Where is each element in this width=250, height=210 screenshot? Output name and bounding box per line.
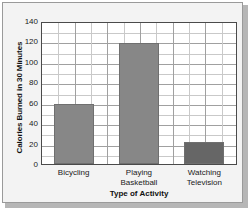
y-tick-label: 100	[4, 59, 38, 67]
x-axis-ticks: Bicycling Playing Basketball Watching Te…	[41, 168, 237, 190]
figure-shadow-bottom	[5, 203, 248, 208]
x-tick-label-playing-basketball: Playing Basketball	[106, 168, 171, 187]
y-tick-label: 0	[4, 161, 38, 169]
bar-watching-television[interactable]	[184, 142, 224, 164]
bar-series	[42, 23, 236, 164]
x-tick-line: Television	[172, 178, 237, 188]
y-tick-label: 80	[4, 79, 38, 87]
y-tick-label: 20	[4, 141, 38, 149]
bar-bicycling[interactable]	[54, 104, 94, 164]
x-tick-label-watching-television: Watching Television	[172, 168, 237, 187]
figure-shadow-right	[243, 5, 248, 208]
x-tick-line: Basketball	[106, 178, 171, 188]
y-tick-label: 120	[4, 38, 38, 46]
x-tick-line: Watching	[172, 168, 237, 178]
x-tick-label-bicycling: Bicycling	[41, 168, 106, 178]
y-axis-ticks: 140 120 100 80 60 40 20 0	[0, 22, 38, 165]
x-tick-line: Playing	[106, 168, 171, 178]
x-axis-title: Type of Activity	[41, 189, 237, 198]
plot-area	[41, 22, 237, 165]
chart-figure: Calories Burned in 30 Minutes 140 120 10…	[0, 0, 250, 210]
y-tick-label: 60	[4, 100, 38, 108]
y-tick-label: 40	[4, 120, 38, 128]
y-tick-label: 140	[4, 18, 38, 26]
bar-playing-basketball[interactable]	[119, 43, 159, 164]
x-tick-line: Bicycling	[41, 168, 106, 178]
